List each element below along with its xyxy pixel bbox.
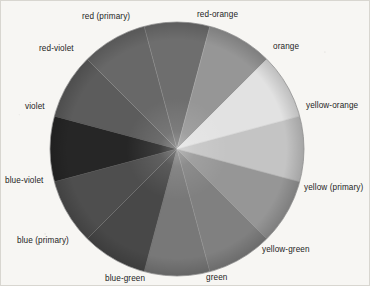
wheel-label-yellow-orange: yellow-orange: [306, 102, 358, 110]
wheel-label-violet: violet: [25, 103, 45, 111]
wheel-label-yellow-green: yellow-green: [262, 246, 310, 254]
wheel-label-orange: orange: [273, 43, 299, 51]
wheel-label-red-primary: red (primary): [82, 13, 130, 21]
wheel-label-blue-green: blue-green: [105, 275, 145, 283]
wheel-label-blue-violet: blue-violet: [5, 177, 43, 185]
color-wheel-figure: red (primary)red-orangeorangeyellow-oran…: [0, 0, 370, 286]
wheel-label-red-orange: red-orange: [197, 11, 238, 19]
wheel-label-green: green: [206, 274, 227, 282]
color-wheel-svg: [48, 21, 306, 277]
wheel-label-yellow-primary: yellow (primary): [304, 184, 363, 192]
wheel-label-blue-primary: blue (primary): [17, 237, 69, 245]
wheel-shading: [50, 22, 304, 276]
color-wheel: [48, 21, 306, 277]
wheel-label-red-violet: red-violet: [39, 45, 74, 53]
